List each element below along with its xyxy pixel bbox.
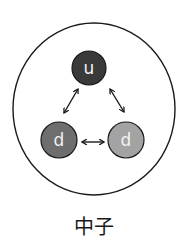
quark-u: u: [72, 51, 106, 85]
diagram-caption: 中子: [0, 211, 188, 238]
neutron-boundary: [13, 23, 175, 195]
neutron-diagram: u d d: [0, 0, 188, 238]
arrow-u-d-right: [110, 89, 124, 112]
arrow-u-d-left: [64, 89, 78, 113]
quark-d-right: d: [108, 122, 144, 158]
quark-u-label: u: [84, 58, 95, 78]
quark-d-left-label: d: [54, 130, 65, 150]
quark-d-left: d: [41, 122, 77, 158]
quark-d-right-label: d: [121, 130, 132, 150]
